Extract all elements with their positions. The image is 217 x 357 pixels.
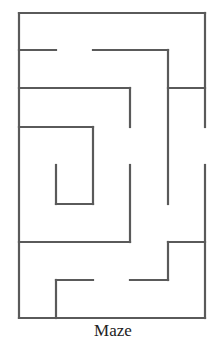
maze-diagram	[0, 0, 217, 357]
figure-caption: Maze	[0, 321, 217, 341]
